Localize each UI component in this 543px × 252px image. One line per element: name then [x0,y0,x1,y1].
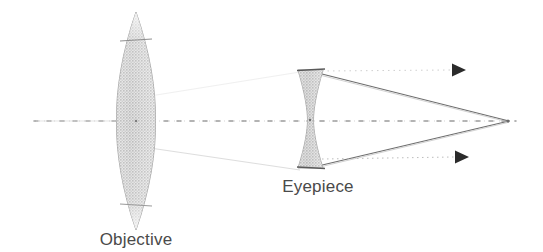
ray-convergence-vertex [507,120,510,123]
eyepiece-label: Eyepiece [282,177,354,196]
optics-ray-diagram: Objective Eyepiece [0,0,543,252]
page-background [0,0,543,252]
objective-label: Objective [100,230,173,249]
objective-lens-center-point [135,120,138,123]
ray-diagram-canvas: Objective Eyepiece [0,0,543,252]
eyepiece-lens-center-point [309,119,311,121]
